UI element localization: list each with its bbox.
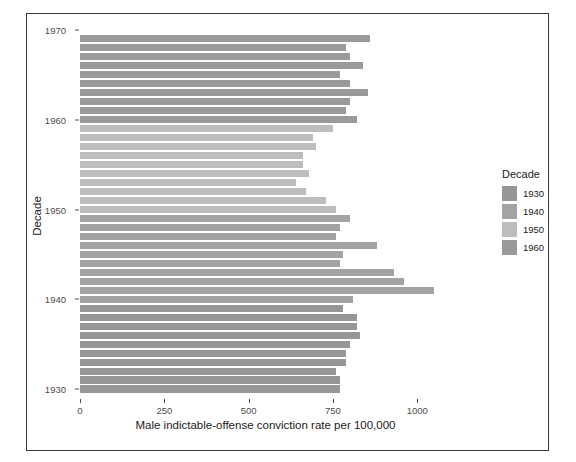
bar-row: [80, 278, 451, 285]
bar: [80, 251, 343, 258]
plot-panel: [80, 21, 451, 398]
bar-row: [80, 35, 451, 42]
y-axis-tick-mark: [75, 119, 79, 120]
bar: [80, 53, 350, 60]
bar: [80, 368, 336, 375]
bar-row: [80, 80, 451, 87]
legend-item: 1930: [502, 185, 572, 202]
bar: [80, 134, 313, 141]
bar: [80, 197, 326, 204]
bar: [80, 305, 343, 312]
legend: Decade 1930194019501960: [502, 168, 572, 257]
bar-row: [80, 385, 451, 392]
x-axis-tick-mark: [417, 399, 418, 403]
legend-swatch: [502, 222, 517, 237]
bar-row: [80, 287, 451, 294]
bar-row: [80, 98, 451, 105]
legend-item: 1960: [502, 239, 572, 256]
legend-swatch: [502, 240, 517, 255]
bar-row: [80, 134, 451, 141]
y-axis-tick-label: 1950: [45, 204, 66, 215]
bar-row: [80, 125, 451, 132]
bar-row: [80, 53, 451, 60]
bar: [80, 376, 340, 383]
bar: [80, 116, 357, 123]
bar: [80, 107, 346, 114]
bar-row: [80, 368, 451, 375]
bar: [80, 224, 340, 231]
bar: [80, 179, 296, 186]
bar: [80, 233, 336, 240]
bar: [80, 35, 370, 42]
bar-row: [80, 206, 451, 213]
y-axis-tick-mark: [75, 389, 79, 390]
bar: [80, 296, 353, 303]
bar: [80, 170, 309, 177]
legend-title: Decade: [502, 168, 572, 180]
bar: [80, 350, 346, 357]
bar-row: [80, 251, 451, 258]
bar-row: [80, 269, 451, 276]
bar-row: [80, 71, 451, 78]
bar-row: [80, 143, 451, 150]
bar: [80, 62, 363, 69]
bar: [80, 206, 336, 213]
x-axis-tick-label: 1000: [407, 405, 428, 416]
x-axis-tick-mark: [333, 399, 334, 403]
legend-item: 1940: [502, 203, 572, 220]
x-axis-tick-label: 0: [77, 405, 82, 416]
legend-items: 1930194019501960: [502, 185, 572, 256]
legend-label: 1950: [523, 224, 544, 235]
y-axis-tick-label: 1970: [45, 24, 66, 35]
bar-row: [80, 332, 451, 339]
bar: [80, 188, 306, 195]
bar: [80, 98, 350, 105]
bar: [80, 332, 360, 339]
bar-row: [80, 359, 451, 366]
x-axis-tick-label: 750: [325, 405, 341, 416]
legend-label: 1940: [523, 206, 544, 217]
legend-label: 1960: [523, 242, 544, 253]
y-axis-tick-label: 1930: [45, 384, 66, 395]
bar: [80, 44, 346, 51]
bar-row: [80, 197, 451, 204]
bar: [80, 152, 303, 159]
bar-row: [80, 224, 451, 231]
bar-row: [80, 350, 451, 357]
bar-row: [80, 44, 451, 51]
y-axis-title: Decade: [31, 171, 43, 261]
legend-label: 1930: [523, 188, 544, 199]
bar-row: [80, 215, 451, 222]
bar: [80, 215, 350, 222]
bar: [80, 242, 377, 249]
y-axis-tick-label: 1960: [45, 114, 66, 125]
y-axis-tick-mark: [75, 209, 79, 210]
bar-row: [80, 170, 451, 177]
x-axis-tick-label: 500: [241, 405, 257, 416]
legend-item: 1950: [502, 221, 572, 238]
bar-row: [80, 62, 451, 69]
bar: [80, 287, 434, 294]
bar: [80, 260, 340, 267]
x-axis-tick-mark: [249, 399, 250, 403]
bar-row: [80, 116, 451, 123]
bar: [80, 385, 340, 392]
bar-row: [80, 242, 451, 249]
bar: [80, 269, 394, 276]
bar-row: [80, 161, 451, 168]
bar-row: [80, 260, 451, 267]
bar-row: [80, 323, 451, 330]
bar-row: [80, 89, 451, 96]
x-axis-tick-label: 250: [156, 405, 172, 416]
bar-row: [80, 107, 451, 114]
x-axis-tick-mark: [164, 399, 165, 403]
bar-row: [80, 233, 451, 240]
bar: [80, 143, 316, 150]
bar: [80, 359, 346, 366]
y-axis-tick-mark: [75, 29, 79, 30]
bar: [80, 278, 404, 285]
bar-row: [80, 296, 451, 303]
bar: [80, 125, 333, 132]
bar-row: [80, 314, 451, 321]
bar: [80, 89, 368, 96]
